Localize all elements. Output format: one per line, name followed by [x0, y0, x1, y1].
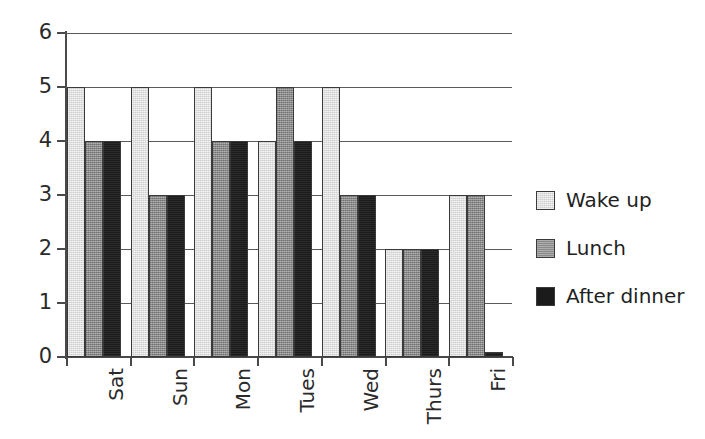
y-axis-tick-label: 0 — [0, 346, 52, 367]
y-axis-tick-label: 2 — [0, 238, 52, 259]
bar-chart: 0123456 SatSunMonTuesWedThursFri Wake up… — [0, 0, 705, 439]
legend-swatch-icon — [536, 239, 555, 258]
bar — [212, 141, 230, 357]
y-axis-tick-label: 4 — [0, 130, 52, 151]
bar — [385, 249, 403, 357]
bar — [67, 87, 85, 357]
y-axis-tick — [57, 86, 65, 88]
y-axis-tick-label: 6 — [0, 22, 52, 43]
legend: Wake upLunchAfter dinner — [536, 176, 701, 320]
legend-entry: Wake up — [536, 176, 701, 224]
legend-entry: After dinner — [536, 272, 701, 320]
bar-group — [449, 33, 503, 357]
legend-swatch-icon — [536, 191, 555, 210]
bar — [358, 195, 376, 357]
bar — [276, 87, 294, 357]
y-axis-tick — [57, 356, 65, 358]
y-axis-tick-label: 5 — [0, 76, 52, 97]
bar — [294, 141, 312, 357]
x-axis-tick — [257, 357, 259, 366]
bar-group — [194, 33, 248, 357]
bar — [131, 87, 149, 357]
x-axis-tick-label: Tues — [297, 368, 317, 413]
x-axis-tick — [130, 357, 132, 366]
bar — [149, 195, 167, 357]
plot-area — [66, 33, 512, 357]
bar — [258, 141, 276, 357]
legend-label: Lunch — [566, 238, 626, 258]
bar — [467, 195, 485, 357]
legend-label: Wake up — [566, 190, 652, 210]
bar — [421, 249, 439, 357]
x-axis-tick-label: Mon — [233, 368, 253, 410]
legend-swatch-icon — [536, 287, 555, 306]
bar — [167, 195, 185, 357]
bar — [103, 141, 121, 357]
x-axis-tick-label: Sun — [170, 368, 190, 406]
x-axis-tick-label: Thurs — [424, 368, 444, 424]
bar-group — [258, 33, 312, 357]
y-axis-tick — [57, 140, 65, 142]
bar-group — [322, 33, 376, 357]
x-axis-tick-label: Sat — [106, 368, 126, 401]
y-axis-tick — [57, 248, 65, 250]
bar — [340, 195, 358, 357]
x-axis-tick — [385, 357, 387, 366]
y-axis-tick-label: 1 — [0, 292, 52, 313]
bar — [322, 87, 340, 357]
x-axis-tick — [66, 357, 68, 366]
bar-group — [131, 33, 185, 357]
y-axis-tick — [57, 194, 65, 196]
x-axis-tick — [512, 357, 514, 366]
x-axis-tick-label: Fri — [488, 368, 508, 392]
bar — [403, 249, 421, 357]
x-axis-tick-label: Wed — [361, 368, 381, 412]
bar — [85, 141, 103, 357]
x-axis-tick — [321, 357, 323, 366]
y-axis-tick — [57, 302, 65, 304]
bar — [485, 352, 503, 357]
y-axis-tick — [57, 32, 65, 34]
legend-label: After dinner — [566, 286, 685, 306]
x-axis-tick — [193, 357, 195, 366]
legend-entry: Lunch — [536, 224, 701, 272]
bar-group — [67, 33, 121, 357]
bar — [449, 195, 467, 357]
x-axis-tick — [448, 357, 450, 366]
bar — [194, 87, 212, 357]
bar-group — [385, 33, 439, 357]
bar — [230, 141, 248, 357]
y-axis-tick-label: 3 — [0, 184, 52, 205]
